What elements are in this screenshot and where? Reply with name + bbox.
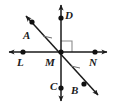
point-a-label: A [23,30,30,41]
point-d-label: D [65,10,73,21]
point-l-label: L [17,57,24,68]
point-n-label: N [89,57,97,68]
geometry-figure: A D L M N C B [0,0,114,106]
point-n-dot [92,49,97,54]
point-m-dot [58,49,63,54]
point-a-dot [29,19,34,24]
point-c-label: C [50,81,57,92]
point-b-label: B [71,85,78,96]
point-c-dot [58,85,63,90]
point-b-dot [81,81,86,86]
point-l-dot [20,49,25,54]
point-d-dot [58,15,63,20]
line-ab [26,16,98,95]
point-m-label: M [45,57,55,68]
